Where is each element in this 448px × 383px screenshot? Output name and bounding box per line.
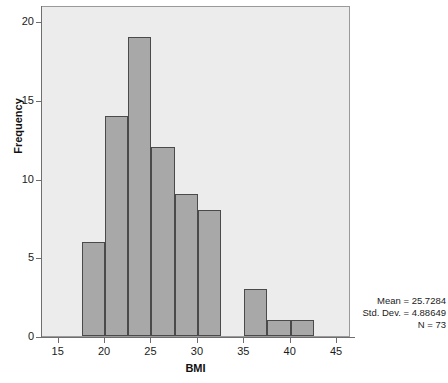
x-tick-label: 25: [130, 345, 170, 357]
histogram-bar: [291, 320, 314, 336]
y-tick-label: 0: [0, 330, 40, 342]
mean-value: Mean = 25.7284: [356, 295, 446, 307]
bars-layer: [42, 7, 349, 336]
x-tick-mark: [243, 338, 244, 343]
histogram-bar: [175, 194, 198, 336]
histogram-bar: [128, 37, 151, 336]
x-tick-mark: [336, 338, 337, 343]
x-tick-label: 15: [38, 345, 78, 357]
histogram-figure: 15202530354045 05101520 BMI Frequency Me…: [0, 0, 448, 383]
plot-area: [41, 6, 350, 337]
histogram-bar: [105, 116, 128, 337]
x-tick-mark: [150, 338, 151, 343]
x-axis-line: [36, 337, 355, 338]
x-tick-label: 30: [177, 345, 217, 357]
x-axis-title: BMI: [41, 362, 350, 374]
y-axis-title: Frequency: [12, 76, 24, 176]
y-axis-line: [41, 6, 42, 338]
x-tick-label: 40: [270, 345, 310, 357]
histogram-bar: [198, 210, 221, 336]
y-tick-label: 20: [0, 15, 40, 27]
histogram-bar: [82, 242, 105, 337]
histogram-bar: [151, 147, 174, 336]
x-tick-mark: [197, 338, 198, 343]
x-tick-label: 45: [316, 345, 356, 357]
std-dev-value: Std. Dev. = 4.88649: [356, 307, 446, 319]
statistics-annotation: Mean = 25.7284 Std. Dev. = 4.88649 N = 7…: [356, 295, 446, 331]
x-tick-label: 20: [84, 345, 124, 357]
sample-size-value: N = 73: [356, 319, 446, 331]
histogram-bar: [244, 289, 267, 336]
y-tick-label: 5: [0, 251, 40, 263]
x-tick-label: 35: [223, 345, 263, 357]
x-tick-mark: [104, 338, 105, 343]
x-tick-mark: [290, 338, 291, 343]
x-tick-mark: [58, 338, 59, 343]
histogram-bar: [267, 320, 290, 336]
